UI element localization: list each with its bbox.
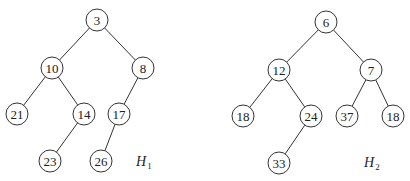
node-value: 8 <box>140 61 147 76</box>
heap-node: 10 <box>41 57 63 79</box>
diagram-canvas: 3108211417232661271824371833 H1H2 <box>0 0 410 181</box>
heap-diagram: 3108211417232661271824371833 H1H2 <box>0 0 410 181</box>
heap-node: 6 <box>315 11 337 33</box>
edges-layer <box>24 28 389 154</box>
node-value: 3 <box>94 13 101 28</box>
node-value: 23 <box>44 154 57 169</box>
tree-edge <box>58 77 77 105</box>
heap-label: H1 <box>135 154 152 171</box>
heap-node: 17 <box>108 103 130 125</box>
node-value: 21 <box>11 107 24 122</box>
tree-edge <box>287 30 319 62</box>
heap-node: 23 <box>39 150 61 172</box>
heap-node: 12 <box>268 59 290 81</box>
node-value: 12 <box>273 63 286 78</box>
heap-node: 18 <box>382 105 404 127</box>
node-value: 26 <box>95 154 109 169</box>
heap-label: H2 <box>363 155 380 172</box>
heap-node: 26 <box>90 150 112 172</box>
tree-edge <box>60 28 90 60</box>
node-value: 18 <box>387 109 400 124</box>
heap-node: 14 <box>73 103 95 125</box>
tree-edge <box>285 125 305 154</box>
node-value: 6 <box>323 15 330 30</box>
tree-edge <box>352 80 366 106</box>
tree-edge <box>376 80 389 106</box>
tree-edge <box>334 30 364 62</box>
node-value: 18 <box>237 109 250 124</box>
tree-edge <box>105 124 115 150</box>
node-value: 37 <box>341 109 355 124</box>
tree-edge <box>56 123 77 152</box>
tree-edge <box>105 28 136 60</box>
heap-node: 3 <box>86 9 108 31</box>
node-value: 33 <box>273 156 286 171</box>
nodes-layer: 3108211417232661271824371833 <box>6 9 404 174</box>
labels-layer: H1H2 <box>135 154 380 172</box>
tree-edge <box>250 79 272 108</box>
heap-node: 7 <box>360 59 382 81</box>
heap-node: 24 <box>300 105 322 127</box>
heap-node: 21 <box>6 103 28 125</box>
node-value: 14 <box>78 107 92 122</box>
tree-edge <box>24 77 46 105</box>
tree-edge <box>285 79 304 107</box>
node-value: 10 <box>46 61 59 76</box>
heap-node: 8 <box>132 57 154 79</box>
tree-edge <box>124 78 138 104</box>
heap-node: 18 <box>232 105 254 127</box>
node-value: 7 <box>368 63 375 78</box>
heap-node: 37 <box>336 105 358 127</box>
heap-node: 33 <box>268 152 290 174</box>
node-value: 24 <box>305 109 319 124</box>
node-value: 17 <box>113 107 127 122</box>
